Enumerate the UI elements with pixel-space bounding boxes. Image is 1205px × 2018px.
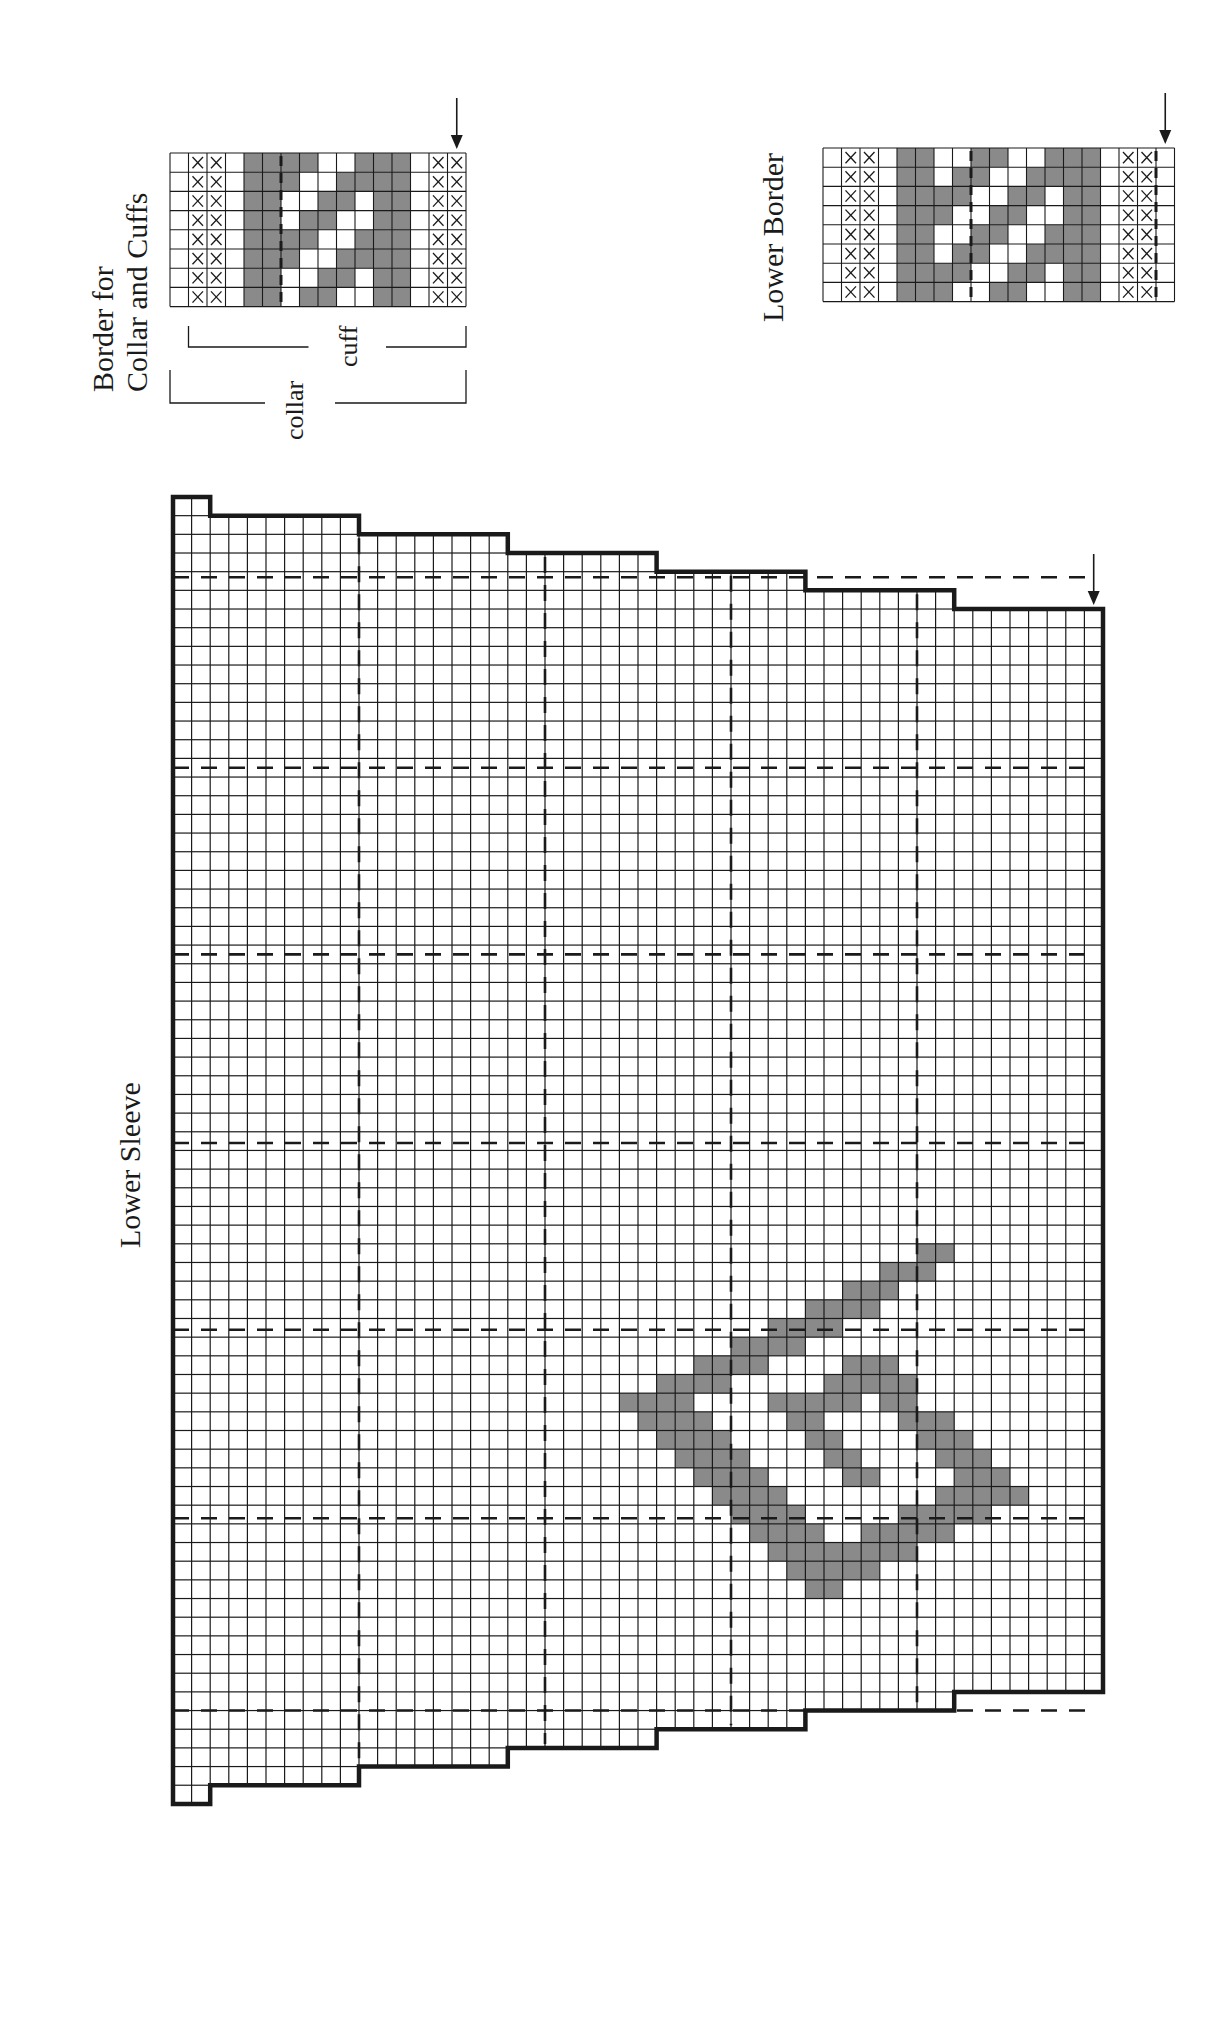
contrast-cell <box>1082 244 1101 263</box>
motif-cell <box>824 1431 843 1450</box>
contrast-cell <box>355 249 374 268</box>
motif-cell <box>657 1412 676 1431</box>
contrast-cell <box>897 167 916 186</box>
contrast-cell <box>1045 167 1064 186</box>
contrast-cell <box>1045 148 1064 167</box>
contrast-cell <box>1082 263 1101 282</box>
contrast-cell <box>1045 225 1064 244</box>
motif-cell <box>750 1487 769 1506</box>
contrast-cell <box>897 206 916 225</box>
contrast-cell <box>971 167 990 186</box>
contrast-cell <box>374 153 393 172</box>
contrast-cell <box>337 268 356 287</box>
motif-cell <box>638 1412 657 1431</box>
contrast-cell <box>897 148 916 167</box>
contrast-cell <box>990 282 1009 301</box>
motif-cell <box>787 1393 806 1412</box>
contrast-cell <box>281 230 300 249</box>
motif-cell <box>843 1374 862 1393</box>
motif-cell <box>973 1468 992 1487</box>
contrast-cell <box>244 249 263 268</box>
motif-cell <box>805 1431 824 1450</box>
motif-cell <box>898 1412 917 1431</box>
motif-cell <box>805 1524 824 1543</box>
motif-cell <box>861 1281 880 1300</box>
motif-cell <box>861 1543 880 1562</box>
contrast-cell <box>971 244 990 263</box>
contrast-cell <box>244 287 263 306</box>
motif-cell <box>954 1468 973 1487</box>
motif-cell <box>880 1262 899 1281</box>
contrast-cell <box>281 172 300 191</box>
motif-cell <box>731 1468 750 1487</box>
contrast-cell <box>374 191 393 210</box>
motif-cell <box>843 1393 862 1412</box>
contrast-cell <box>1008 282 1027 301</box>
contrast-cell <box>953 263 972 282</box>
contrast-cell <box>1082 225 1101 244</box>
motif-cell <box>675 1431 694 1450</box>
motif-cell <box>843 1561 862 1580</box>
motif-cell <box>750 1505 769 1524</box>
contrast-cell <box>318 211 337 230</box>
contrast-cell <box>281 153 300 172</box>
motif-cell <box>675 1393 694 1412</box>
collar-bracket-left <box>170 370 265 403</box>
motif-cell <box>917 1431 936 1450</box>
contrast-cell <box>1064 282 1083 301</box>
contrast-cell <box>300 230 319 249</box>
contrast-cell <box>1008 186 1027 205</box>
motif-cell <box>657 1393 676 1412</box>
motif-cell <box>861 1300 880 1319</box>
motif-cell <box>917 1412 936 1431</box>
motif-cell <box>731 1487 750 1506</box>
motif-cell <box>861 1356 880 1375</box>
contrast-cell <box>897 263 916 282</box>
contrast-cell <box>1064 263 1083 282</box>
motif-cell <box>843 1449 862 1468</box>
contrast-cell <box>1082 282 1101 301</box>
motif-cell <box>675 1412 694 1431</box>
motif-cell <box>898 1524 917 1543</box>
motif-cell <box>768 1487 787 1506</box>
collar-cuff-border-chart <box>170 98 466 307</box>
motif-cell <box>936 1505 955 1524</box>
motif-cell <box>954 1487 973 1506</box>
contrast-cell <box>1064 186 1083 205</box>
contrast-cell <box>337 249 356 268</box>
motif-cell <box>936 1412 955 1431</box>
motif-cell <box>712 1468 731 1487</box>
contrast-cell <box>263 287 282 306</box>
motif-cell <box>694 1431 713 1450</box>
motif-cell <box>898 1262 917 1281</box>
contrast-cell <box>263 172 282 191</box>
contrast-cell <box>1064 148 1083 167</box>
motif-cell <box>694 1449 713 1468</box>
motif-cell <box>936 1487 955 1506</box>
contrast-cell <box>916 148 935 167</box>
start-arrow-head-icon <box>451 135 463 149</box>
lower-border-chart <box>823 93 1175 302</box>
contrast-cell <box>392 191 411 210</box>
motif-cell <box>898 1393 917 1412</box>
motif-cell <box>843 1356 862 1375</box>
motif-cell <box>936 1431 955 1450</box>
motif-cell <box>936 1244 955 1263</box>
motif-cell <box>787 1524 806 1543</box>
contrast-cell <box>392 249 411 268</box>
motif-cell <box>787 1561 806 1580</box>
contrast-cell <box>300 153 319 172</box>
motif-cell <box>712 1356 731 1375</box>
contrast-cell <box>300 211 319 230</box>
motif-cell <box>805 1412 824 1431</box>
contrast-cell <box>934 263 953 282</box>
contrast-cell <box>1008 263 1027 282</box>
motif-cell <box>675 1374 694 1393</box>
contrast-cell <box>244 230 263 249</box>
contrast-cell <box>392 268 411 287</box>
motif-cell <box>973 1505 992 1524</box>
motif-cell <box>657 1374 676 1393</box>
motif-cell <box>805 1318 824 1337</box>
contrast-cell <box>934 186 953 205</box>
contrast-cell <box>953 186 972 205</box>
